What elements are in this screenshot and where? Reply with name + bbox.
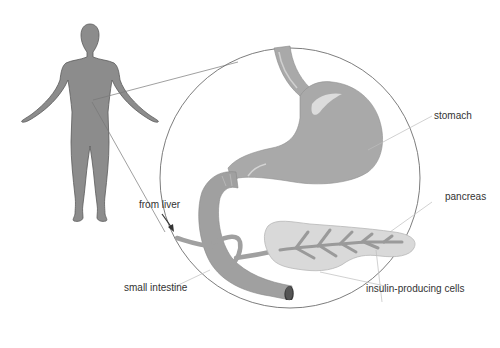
anatomy-diagram (0, 0, 500, 348)
label-pancreas: pancreas (445, 191, 486, 203)
label-stomach: stomach (434, 110, 472, 122)
label-insulin-producing-cells: insulin-producing cells (366, 283, 464, 295)
stomach (228, 82, 383, 184)
pancreas (264, 221, 415, 271)
human-body-silhouette (22, 24, 159, 221)
label-from-liver: from liver (139, 199, 180, 211)
esophagus (274, 46, 310, 96)
label-small-intestine: small intestine (124, 282, 187, 294)
